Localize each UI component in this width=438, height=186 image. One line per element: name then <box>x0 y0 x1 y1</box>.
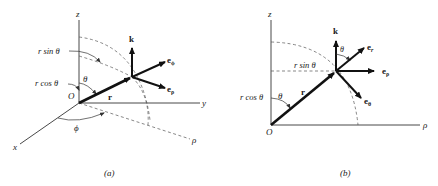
theta-arc <box>79 83 96 94</box>
origin-label: O <box>266 127 273 137</box>
phi-label: ϕ <box>74 123 79 133</box>
e-rho-label: eρ <box>167 84 174 95</box>
r-cos-theta-label: r cos θ <box>35 78 58 88</box>
z-axis-label: z <box>267 9 272 19</box>
r-sin-theta-label: r sin θ <box>294 60 316 70</box>
r-sin-theta-label: r sin θ <box>38 46 60 56</box>
e-r-label: er <box>367 42 374 53</box>
panel-a-caption: (a) <box>104 168 115 178</box>
e-theta-label: eθ <box>364 96 371 107</box>
k-label: k <box>333 26 338 36</box>
r-vector-label: r <box>108 92 112 102</box>
vertical-drop-line <box>132 77 148 125</box>
r-cos-theta-leader <box>68 84 79 90</box>
r-vector-label: r <box>301 87 305 97</box>
panel-b: z ρ r sin θ r cos θ θ O r k θ er eρ eθ (… <box>240 9 428 178</box>
r-cos-theta-label: r cos θ <box>240 92 263 102</box>
x-axis-label: x <box>12 142 17 152</box>
rho-axis-label: ρ <box>191 135 197 145</box>
e-phi-unit-vector <box>132 62 165 77</box>
k-label: k <box>129 34 134 44</box>
theta-top-label: θ <box>340 45 344 54</box>
spherical-coordinates-figure: z y x ρ r sin θ r cos θ θ ϕ O r k eϕ eρ <box>0 0 438 186</box>
r-sin-theta-leader <box>69 51 100 62</box>
z-axis-label: z <box>75 9 80 19</box>
phi-arc <box>58 113 104 120</box>
x-axis <box>20 103 79 144</box>
rho-projection-line <box>79 103 190 139</box>
e-phi-label: eϕ <box>167 55 175 66</box>
theta-label: θ <box>83 74 88 84</box>
theta-label: θ <box>278 91 283 101</box>
panel-a: z y x ρ r sin θ r cos θ θ ϕ O r k eϕ eρ <box>12 9 206 178</box>
panel-b-caption: (b) <box>340 168 351 178</box>
rho-axis-label: ρ <box>422 120 428 130</box>
origin-label: O <box>68 91 75 101</box>
y-axis-label: y <box>201 98 206 108</box>
e-theta-unit-vector <box>336 71 361 98</box>
theta-top-arc <box>336 54 350 60</box>
e-rho-label: eρ <box>382 66 389 77</box>
